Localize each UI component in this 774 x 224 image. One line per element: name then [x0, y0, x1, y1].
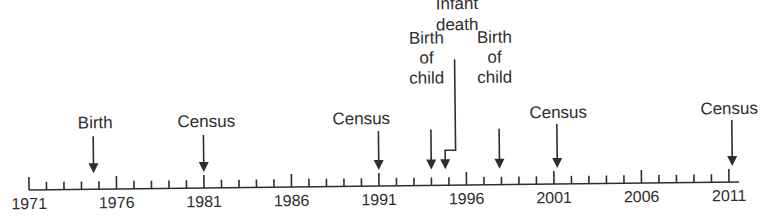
- event-census-2001: Census: [529, 103, 587, 169]
- arrow-down-icon: [199, 162, 209, 172]
- arrow-down-icon: [374, 160, 384, 170]
- year-label: 1991: [361, 191, 397, 208]
- year-label: 2001: [536, 189, 572, 206]
- arrow-down-icon: [552, 158, 562, 168]
- event-label: death: [436, 15, 479, 34]
- event-label: of: [419, 48, 434, 67]
- arrow-down-icon: [426, 159, 436, 169]
- event-label: Birth: [78, 113, 113, 132]
- event-census-1991: Census: [332, 109, 390, 171]
- event-birth-of-child-1: Birthofchild: [409, 28, 446, 169]
- event-label: Census: [177, 112, 235, 132]
- event-birth-of-child-2: Birthofchild: [477, 28, 514, 169]
- arrow-down-icon: [440, 159, 450, 169]
- event-label: Birth: [477, 28, 512, 47]
- timeline-events: BirthCensusCensusBirthofchildInfantdeath…: [76, 0, 758, 173]
- event-label: child: [409, 68, 444, 87]
- arrow-down-icon: [494, 159, 504, 169]
- event-census-2011: Census: [700, 99, 758, 167]
- event-label: Census: [529, 103, 587, 123]
- year-label: 1971: [11, 195, 47, 212]
- year-label: 1976: [99, 194, 135, 211]
- year-label: 1996: [449, 190, 485, 207]
- arrow-down-icon: [727, 156, 737, 166]
- year-label: 1986: [274, 192, 310, 209]
- event-label: Census: [332, 109, 390, 129]
- infant-death-connector: [444, 59, 456, 161]
- event-label: Infant: [436, 0, 479, 13]
- year-label: 2011: [712, 187, 747, 204]
- year-label: 2006: [624, 188, 660, 205]
- life-course-timeline: 197119761981198619911996200120062011 Bir…: [0, 0, 774, 224]
- event-label: Census: [700, 99, 758, 119]
- event-birth: Birth: [78, 113, 114, 173]
- event-label: of: [487, 48, 502, 67]
- arrow-down-icon: [88, 163, 98, 173]
- event-label: child: [477, 68, 512, 87]
- event-census-1981: Census: [177, 112, 235, 173]
- year-label: 1981: [186, 193, 222, 210]
- timeline-axis: 197119761981198619911996200120062011: [11, 169, 746, 212]
